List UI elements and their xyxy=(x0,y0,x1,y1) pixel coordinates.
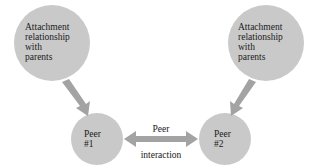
label-line: relationship xyxy=(25,32,70,42)
label-line: Peer xyxy=(214,129,231,139)
label-line: Attachment xyxy=(238,22,283,32)
arrow-parents-left-to-peer-1 xyxy=(62,79,90,116)
parents-left-label: Attachment relationship with parents xyxy=(25,22,70,62)
label-line: #1 xyxy=(84,139,101,149)
label-line: with xyxy=(238,42,283,52)
arrow-parents-right-to-peer-2 xyxy=(230,79,256,116)
label-line: relationship xyxy=(238,32,283,42)
label-line: #2 xyxy=(214,139,231,149)
interaction-label-bottom: interaction xyxy=(126,150,196,160)
parents-right-label: Attachment relationship with parents xyxy=(238,22,283,62)
interaction-label-top: Peer xyxy=(131,124,191,134)
label-line: Attachment xyxy=(25,22,70,32)
peer-2-label: Peer #2 xyxy=(214,129,231,149)
label-line: parents xyxy=(25,52,70,62)
label-line: parents xyxy=(238,52,283,62)
label-line: with xyxy=(25,42,70,52)
peer-1-label: Peer #1 xyxy=(84,129,101,149)
label-line: Peer xyxy=(84,129,101,139)
